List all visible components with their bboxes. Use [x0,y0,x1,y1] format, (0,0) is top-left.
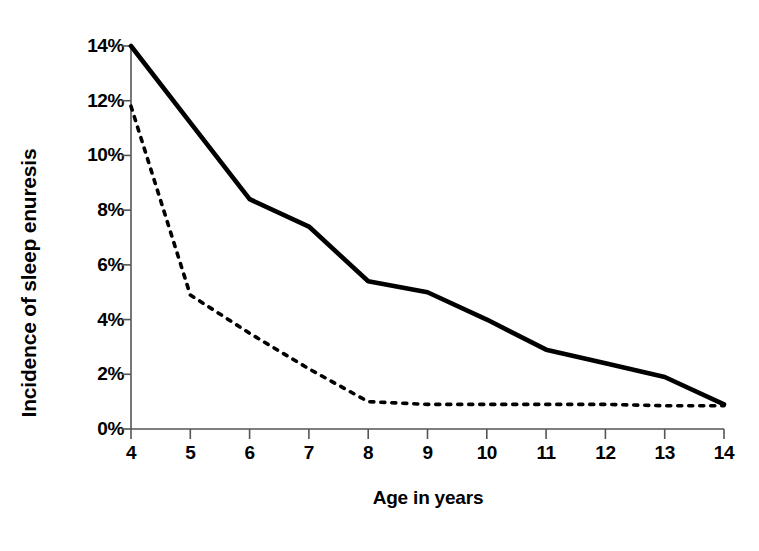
tick-marks [122,46,724,439]
data-series [131,46,724,406]
plot-area [0,0,759,551]
series-line-dashed-series [131,106,724,406]
chart-container: Incidence of sleep enuresis 0%2%4%6%8%10… [0,0,759,551]
series-line-solid-series [131,46,724,404]
